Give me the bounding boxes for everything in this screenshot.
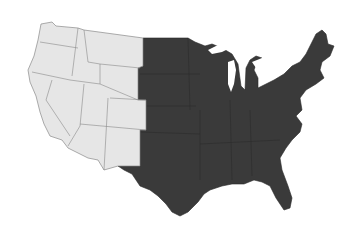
region-east — [118, 30, 334, 216]
us-map — [0, 0, 357, 230]
